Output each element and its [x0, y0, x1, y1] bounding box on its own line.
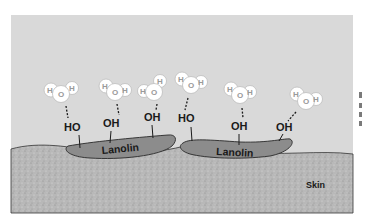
- atom-o: O: [303, 97, 309, 106]
- lanolin-label-2: Lanolin: [216, 145, 254, 159]
- atom-h: H: [313, 95, 319, 104]
- atom-h: H: [122, 86, 128, 95]
- atom-o: O: [237, 91, 243, 100]
- atom-h: H: [247, 88, 253, 97]
- atom-o: O: [188, 81, 194, 90]
- hydroxyl-label: OH: [276, 121, 293, 133]
- skin-label: Skin: [306, 180, 325, 190]
- atom-h: H: [157, 77, 163, 86]
- atom-h: H: [69, 84, 75, 93]
- lanolin-diagram: Lanolin Lanolin Skin HO OH OH HO OH OH: [0, 0, 365, 224]
- caption-fragment: [359, 92, 362, 98]
- caption-fragment: [359, 103, 362, 108]
- hydroxyl-label: OH: [103, 117, 120, 129]
- hydroxyl-label: OH: [144, 111, 161, 123]
- atom-h: H: [47, 86, 53, 95]
- atom-h: H: [140, 87, 146, 96]
- hydroxyl-label: HO: [64, 121, 81, 133]
- hydroxyl-label: OH: [231, 120, 248, 132]
- atom-o: O: [58, 90, 64, 99]
- atom-o: O: [112, 88, 118, 97]
- caption-fragment: [359, 112, 362, 117]
- atom-h: H: [227, 85, 233, 94]
- atom-h: H: [102, 82, 108, 91]
- atom-h: H: [293, 90, 299, 99]
- atom-h: H: [178, 75, 184, 84]
- atom-o: O: [151, 88, 157, 97]
- atom-h: H: [198, 78, 204, 87]
- skin-region: [11, 145, 353, 213]
- hydroxyl-label: HO: [178, 112, 195, 124]
- caption-fragment: [359, 121, 362, 126]
